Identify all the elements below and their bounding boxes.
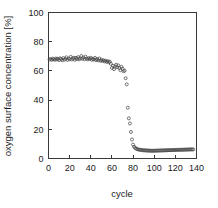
y-axis-label: oxygen surface concentration [%] (2, 16, 13, 156)
data-point (127, 117, 130, 120)
y-tick-label: 60 (33, 66, 43, 76)
x-tick-label: 20 (65, 163, 75, 173)
x-tick-label: 140 (189, 163, 204, 173)
data-point (125, 83, 128, 86)
data-point (131, 138, 134, 141)
x-tick-label: 80 (128, 163, 138, 173)
y-tick-label: 80 (33, 37, 43, 47)
data-point (124, 77, 127, 80)
x-tick-label: 100 (147, 163, 162, 173)
y-tick-label: 20 (33, 125, 43, 135)
x-tick-label: 40 (86, 163, 96, 173)
x-tick-label: 60 (107, 163, 117, 173)
x-tick-label: 0 (46, 163, 51, 173)
x-tick-label: 120 (168, 163, 183, 173)
data-point (126, 106, 129, 109)
scatter-plot: 020406080100120140 020406080100 cycle ox… (0, 0, 218, 208)
y-tick-label: 0 (38, 154, 43, 164)
chart-figure: 020406080100120140 020406080100 cycle ox… (0, 0, 218, 208)
data-point (128, 122, 131, 125)
data-point (129, 130, 132, 133)
y-tick-label: 100 (28, 8, 43, 18)
x-axis-label: cycle (111, 188, 133, 199)
x-axis-ticks: 020406080100120140 (46, 155, 204, 173)
y-tick-label: 40 (33, 95, 43, 105)
plot-frame (49, 13, 197, 159)
data-points (48, 55, 195, 153)
